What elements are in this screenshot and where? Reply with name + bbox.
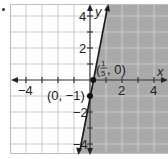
svg-text:5: 5 — [101, 69, 106, 78]
point-b-label: ( 1 5 , 0) — [96, 59, 126, 78]
y-tick-2: 2 — [79, 41, 86, 56]
svg-text:, 0): , 0) — [107, 62, 126, 77]
y-tick-neg2: −2 — [73, 105, 88, 120]
point-y-intercept — [87, 93, 93, 99]
y-tick-neg4: −4 — [73, 137, 88, 152]
x-axis-label: x — [156, 64, 164, 79]
x-tick-4: 4 — [150, 83, 157, 98]
coordinate-plane: y x −4 2 4 4 2 −2 −4 (0, −1) ( 1 5 , 0) — [0, 0, 168, 159]
x-tick-neg4: −4 — [18, 83, 33, 98]
svg-text:1: 1 — [101, 59, 106, 68]
point-x-intercept — [90, 77, 96, 83]
y-tick-4: 4 — [79, 9, 86, 24]
x-tick-2: 2 — [118, 83, 125, 98]
point-a-label: (0, −1) — [47, 88, 85, 103]
